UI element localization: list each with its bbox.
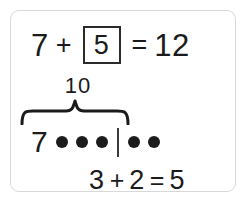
bottom-plus-sign: + [110,168,125,193]
bottom-second-addend: 2 [129,167,145,194]
dot-group-divider [117,128,119,157]
bottom-first-addend: 3 [89,167,105,194]
dot [128,136,140,148]
dot [96,136,108,148]
top-first-addend: 7 [31,30,49,61]
top-equation: 7 + 5 = 12 [11,17,237,73]
brace-label: 10 [11,73,145,99]
top-equals-sign: = [132,32,148,59]
bottom-equals-sign: = [150,168,165,193]
bottom-equation: 3 + 2 = 5 [11,163,237,197]
top-sum: 12 [154,30,189,61]
dot [148,136,160,148]
dots-leading-numeral: 7 [31,127,48,157]
math-problem-card: 7 + 5 = 12 10 7 3 + 2 = 5 [10,10,236,192]
dot [56,136,68,148]
bottom-sum: 5 [169,167,185,194]
top-plus-sign: + [56,32,72,59]
dot [76,136,88,148]
dots-row: 7 [31,121,164,163]
answer-box-value: 5 [94,32,110,59]
answer-box[interactable]: 5 [83,26,121,64]
